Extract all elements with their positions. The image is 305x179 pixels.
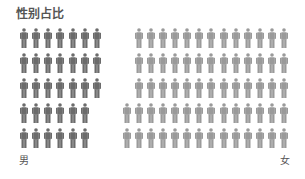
- female-person-icon: [256, 28, 264, 48]
- female-person-icon: [268, 103, 276, 123]
- female-person-icon: [256, 103, 264, 123]
- female-person-icon: [232, 53, 240, 73]
- female-person-icon: [232, 28, 240, 48]
- female-person-icon: [195, 28, 203, 48]
- male-person-icon: [32, 53, 40, 73]
- female-person-icon: [268, 78, 276, 98]
- male-person-icon: [20, 128, 28, 148]
- female-person-icon: [171, 28, 179, 48]
- female-person-icon: [159, 128, 167, 148]
- female-label: 女: [280, 152, 290, 167]
- female-person-icon: [220, 53, 228, 73]
- female-person-icon: [207, 103, 215, 123]
- female-person-icon: [207, 78, 215, 98]
- female-person-icon: [280, 28, 288, 48]
- female-person-icon: [135, 128, 143, 148]
- female-person-icon: [159, 28, 167, 48]
- female-person-icon: [232, 78, 240, 98]
- female-person-icon: [244, 28, 252, 48]
- female-person-icon: [123, 103, 131, 123]
- male-person-icon: [81, 78, 89, 98]
- female-person-icon: [159, 78, 167, 98]
- female-person-icon: [268, 128, 276, 148]
- female-person-icon: [195, 103, 203, 123]
- female-person-icon: [220, 78, 228, 98]
- female-person-icon: [183, 28, 191, 48]
- male-person-icon: [32, 28, 40, 48]
- male-person-icon: [81, 53, 89, 73]
- female-person-icon: [207, 53, 215, 73]
- female-person-icon: [280, 78, 288, 98]
- female-person-icon: [147, 53, 155, 73]
- female-person-icon: [171, 78, 179, 98]
- female-person-icon: [183, 128, 191, 148]
- female-person-icon: [256, 78, 264, 98]
- male-person-icon: [44, 128, 52, 148]
- female-person-icon: [280, 103, 288, 123]
- female-person-icon: [244, 53, 252, 73]
- female-person-icon: [195, 128, 203, 148]
- female-person-icon: [256, 128, 264, 148]
- female-person-icon: [135, 103, 143, 123]
- male-person-icon: [56, 53, 64, 73]
- female-person-icon: [207, 128, 215, 148]
- female-person-icon: [280, 128, 288, 148]
- female-person-icon: [171, 128, 179, 148]
- female-person-icon: [147, 78, 155, 98]
- female-person-icon: [232, 103, 240, 123]
- female-person-icon: [244, 103, 252, 123]
- chart-title: 性别占比: [16, 4, 64, 21]
- female-person-icon: [268, 28, 276, 48]
- male-person-icon: [56, 103, 64, 123]
- female-person-icon: [268, 53, 276, 73]
- female-person-icon: [123, 128, 131, 148]
- female-person-icon: [147, 28, 155, 48]
- male-person-icon: [20, 28, 28, 48]
- male-person-icon: [32, 128, 40, 148]
- female-person-icon: [183, 78, 191, 98]
- male-person-icon: [81, 103, 89, 123]
- male-person-icon: [81, 128, 89, 148]
- male-person-icon: [44, 103, 52, 123]
- female-person-icon: [207, 28, 215, 48]
- male-person-icon: [32, 103, 40, 123]
- female-person-icon: [135, 53, 143, 73]
- female-person-icon: [183, 103, 191, 123]
- female-person-icon: [159, 103, 167, 123]
- male-person-icon: [44, 28, 52, 48]
- female-person-icon: [147, 103, 155, 123]
- male-person-icon: [69, 78, 77, 98]
- male-label: 男: [19, 152, 29, 167]
- male-person-icon: [20, 78, 28, 98]
- male-person-icon: [81, 28, 89, 48]
- male-person-icon: [93, 53, 101, 73]
- male-person-icon: [20, 103, 28, 123]
- female-person-icon: [147, 128, 155, 148]
- female-person-icon: [244, 128, 252, 148]
- female-person-icon: [256, 53, 264, 73]
- female-person-icon: [183, 53, 191, 73]
- female-person-icon: [171, 53, 179, 73]
- female-person-icon: [232, 128, 240, 148]
- female-person-icon: [135, 78, 143, 98]
- male-person-icon: [56, 28, 64, 48]
- male-person-icon: [93, 78, 101, 98]
- male-person-icon: [56, 78, 64, 98]
- female-person-icon: [195, 78, 203, 98]
- female-person-icon: [220, 28, 228, 48]
- male-person-icon: [44, 78, 52, 98]
- female-person-icon: [171, 103, 179, 123]
- male-person-icon: [44, 53, 52, 73]
- female-person-icon: [195, 53, 203, 73]
- female-person-icon: [135, 28, 143, 48]
- female-person-icon: [159, 53, 167, 73]
- male-person-icon: [69, 28, 77, 48]
- male-person-icon: [69, 128, 77, 148]
- female-person-icon: [244, 78, 252, 98]
- male-person-icon: [56, 128, 64, 148]
- male-person-icon: [32, 78, 40, 98]
- female-person-icon: [220, 103, 228, 123]
- male-person-icon: [69, 103, 77, 123]
- female-person-icon: [280, 53, 288, 73]
- male-person-icon: [20, 53, 28, 73]
